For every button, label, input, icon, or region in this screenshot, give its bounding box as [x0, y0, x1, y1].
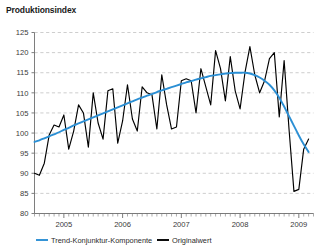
- x-axis-minor-ticks: [35, 214, 314, 219]
- legend-label-originalwert: Originalwert: [172, 236, 211, 245]
- y-tick-label-80: 80: [20, 209, 28, 218]
- x-tick-label-2007: 2007: [173, 220, 190, 229]
- x-tick-label-2005: 2005: [55, 220, 72, 229]
- x-axis-tick-labels: 20052006200720082009: [55, 220, 307, 229]
- y-tick-label-105: 105: [16, 109, 29, 118]
- series-line-originalwert: [35, 47, 309, 192]
- production-index-line-chart: 12512011511010510095908580 2005200620072…: [0, 0, 325, 251]
- legend: Trend-Konjunktur-Komponente Originalwert: [36, 236, 211, 245]
- y-tick-label-125: 125: [16, 28, 29, 37]
- x-tick-label-2009: 2009: [290, 220, 307, 229]
- legend-label-trend-konjunktur-komponente: Trend-Konjunktur-Komponente: [51, 236, 152, 245]
- y-axis-tick-labels: 12512011511010510095908580: [16, 28, 29, 218]
- y-tick-label-90: 90: [20, 169, 28, 178]
- series-line-trend-konjunktur-komponente: [35, 73, 309, 152]
- chart-container: 12512011511010510095908580 2005200620072…: [0, 0, 325, 251]
- gridlines: [32, 33, 314, 214]
- y-tick-label-120: 120: [16, 48, 29, 57]
- x-tick-label-2006: 2006: [114, 220, 131, 229]
- y-tick-label-115: 115: [16, 68, 28, 77]
- x-tick-label-2008: 2008: [232, 220, 249, 229]
- y-tick-label-110: 110: [16, 89, 28, 98]
- y-tick-label-85: 85: [20, 189, 28, 198]
- y-tick-label-100: 100: [16, 129, 29, 138]
- y-tick-label-95: 95: [20, 149, 28, 158]
